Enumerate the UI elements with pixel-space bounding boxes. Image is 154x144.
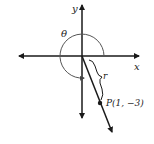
r-label: r bbox=[103, 71, 108, 81]
terminal-ray bbox=[82, 56, 112, 132]
theta-label: θ bbox=[61, 28, 67, 39]
x-axis-label: x bbox=[134, 61, 140, 72]
y-axis-label: y bbox=[71, 3, 78, 14]
angle-diagram: y x θ r P(1, −3) bbox=[0, 0, 154, 144]
point-p-label: P(1, −3) bbox=[105, 98, 144, 108]
point-p bbox=[98, 101, 102, 105]
